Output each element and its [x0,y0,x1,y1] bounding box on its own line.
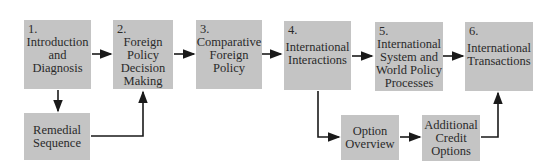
node-international-system: 5.International System and World Policy … [375,22,443,91]
node-comparative-foreign-policy: 3.Comparative Foreign Policy [196,20,262,89]
node-foreign-policy-decision-making: 2.Foreign Policy Decision Making [113,20,173,89]
node-option-overview: Option Overview [341,115,399,160]
node-introduction-diagnosis: 1.Introduction and Diagnosis [24,20,91,89]
node-international-transactions: 6.International Transactions [465,22,533,91]
node-international-interactions: 4.International Interactions [284,21,351,90]
node-additional-credit-options: Additional Credit Options [422,115,480,161]
node-remedial-sequence: Remedial Sequence [24,113,90,160]
